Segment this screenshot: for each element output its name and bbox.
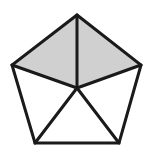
figure-container	[0, 0, 154, 150]
pentagon-figure	[0, 0, 154, 150]
